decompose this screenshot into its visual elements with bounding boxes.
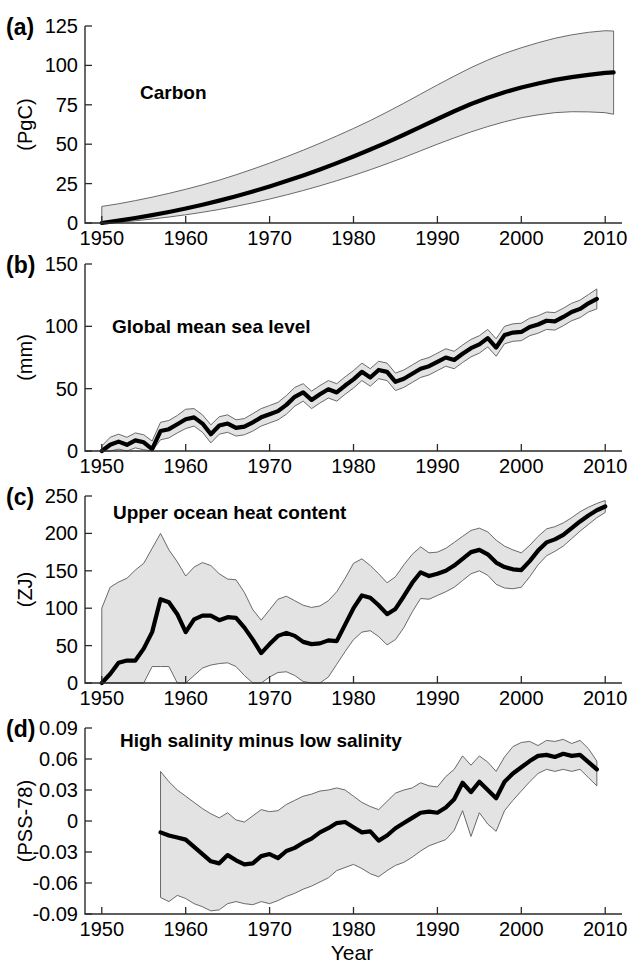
x-tick-label: 1980 xyxy=(331,455,376,477)
y-tick-label: 50 xyxy=(56,635,78,657)
y-tick-label: 0 xyxy=(67,440,78,462)
x-tick-label: 1990 xyxy=(415,918,460,940)
y-tick-label: -0.06 xyxy=(32,872,78,894)
x-tick-label: 2000 xyxy=(499,227,544,249)
y-axis-unit-label: (mm) xyxy=(14,334,36,381)
x-tick-label: 1970 xyxy=(247,687,292,709)
x-tick-label: 2010 xyxy=(583,455,628,477)
climate-indicators-figure: 0255075100125195019601970198019902000201… xyxy=(0,0,638,968)
x-tick-label: 1990 xyxy=(415,687,460,709)
y-tick-label: 0 xyxy=(67,810,78,832)
figure-svg: 0255075100125195019601970198019902000201… xyxy=(0,0,638,968)
y-axis-unit-label: (PgC) xyxy=(14,98,36,150)
y-tick-label: 150 xyxy=(45,253,78,275)
y-tick-label: 250 xyxy=(45,485,78,507)
y-axis-unit-label: (ZJ) xyxy=(14,572,36,608)
y-tick-label: 75 xyxy=(56,94,78,116)
x-tick-label: 1950 xyxy=(80,455,125,477)
y-tick-label: 50 xyxy=(56,133,78,155)
y-tick-label: 25 xyxy=(56,173,78,195)
x-tick-label: 1950 xyxy=(80,227,125,249)
x-axis-title: Year xyxy=(331,941,373,964)
y-axis-unit-label: (PSS-78) xyxy=(14,780,36,862)
panel-letter-c: (c) xyxy=(6,484,34,510)
x-tick-label: 1960 xyxy=(163,455,208,477)
y-tick-label: 100 xyxy=(45,54,78,76)
y-tick-label: 50 xyxy=(56,378,78,400)
y-tick-label: 150 xyxy=(45,560,78,582)
y-tick-label: 0 xyxy=(67,212,78,234)
x-tick-label: 1980 xyxy=(331,918,376,940)
x-tick-label: 1970 xyxy=(247,227,292,249)
x-tick-label: 1960 xyxy=(163,227,208,249)
y-tick-label: 0.03 xyxy=(39,779,78,801)
x-tick-label: 2000 xyxy=(499,687,544,709)
y-tick-label: 100 xyxy=(45,315,78,337)
y-tick-label: -0.03 xyxy=(32,841,78,863)
panel-title-c: Upper ocean heat content xyxy=(113,502,347,523)
x-tick-label: 2010 xyxy=(583,227,628,249)
x-tick-label: 1950 xyxy=(80,687,125,709)
x-tick-label: 1990 xyxy=(415,227,460,249)
x-tick-label: 1980 xyxy=(331,227,376,249)
x-tick-label: 1960 xyxy=(163,687,208,709)
panel-letter-d: (d) xyxy=(6,716,35,742)
y-tick-label: 100 xyxy=(45,597,78,619)
x-tick-label: 1970 xyxy=(247,455,292,477)
y-tick-label: 0 xyxy=(67,672,78,694)
panel-letter-a: (a) xyxy=(6,14,34,40)
panel-title-a: Carbon xyxy=(140,82,207,103)
y-tick-label: 125 xyxy=(45,15,78,37)
y-tick-label: -0.09 xyxy=(32,903,78,925)
panel-letter-b: (b) xyxy=(6,252,35,278)
x-tick-label: 2000 xyxy=(499,455,544,477)
panel-title-d: High salinity minus low salinity xyxy=(120,730,402,751)
y-tick-label: 0.06 xyxy=(39,748,78,770)
x-tick-label: 2000 xyxy=(499,918,544,940)
y-tick-label: 200 xyxy=(45,522,78,544)
x-tick-label: 2010 xyxy=(583,687,628,709)
x-tick-label: 1950 xyxy=(80,918,125,940)
x-tick-label: 2010 xyxy=(583,918,628,940)
x-tick-label: 1970 xyxy=(247,918,292,940)
x-tick-label: 1990 xyxy=(415,455,460,477)
x-tick-label: 1960 xyxy=(163,918,208,940)
x-tick-label: 1980 xyxy=(331,687,376,709)
y-tick-label: 0.09 xyxy=(39,717,78,739)
panel-title-b: Global mean sea level xyxy=(112,316,311,337)
